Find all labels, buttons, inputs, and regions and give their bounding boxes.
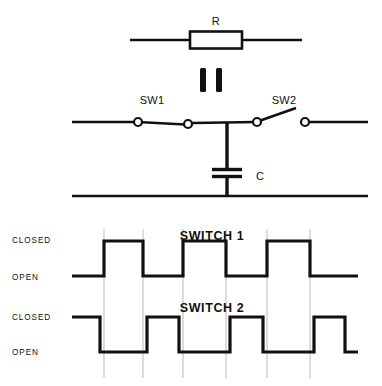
equals-bar-right <box>216 68 222 92</box>
switch-1-right-terminal[interactable] <box>184 120 192 128</box>
switch-1-open-label: OPEN <box>12 273 39 282</box>
switch-1-closed-label: CLOSED <box>12 236 51 245</box>
resistor-group: R <box>130 15 302 49</box>
resistor-label: R <box>212 15 220 27</box>
switch-2-left-terminal[interactable] <box>253 118 261 126</box>
switch-2-waveform <box>72 317 358 352</box>
capacitor-group: C <box>212 170 264 183</box>
switch-1-blade[interactable] <box>138 122 185 125</box>
resistor-body <box>190 32 242 49</box>
switch-2-title: SWITCH 2 <box>180 301 245 315</box>
switch-2-closed-label: CLOSED <box>12 313 51 322</box>
switch-2-group[interactable]: SW2 <box>253 94 309 126</box>
equals-bar-left <box>200 68 206 92</box>
switch-1-waveform <box>72 241 358 276</box>
switch-2-blade[interactable] <box>259 108 296 121</box>
switch-1-left-terminal[interactable] <box>134 118 142 126</box>
switch-1-group[interactable]: SW1 <box>134 94 192 128</box>
capacitor-label: C <box>256 170 264 182</box>
figure-canvas: R SW1 SW2 <box>0 0 382 386</box>
switch-2-timing-chart: CLOSED OPEN SWITCH 2 <box>12 301 358 357</box>
switch-2-right-terminal[interactable] <box>301 118 309 126</box>
switch-1-timing-chart: CLOSED OPEN SWITCH 1 <box>12 229 358 282</box>
switch-2-label: SW2 <box>272 94 297 106</box>
switched-capacitor-network: SW1 SW2 C <box>72 94 368 196</box>
circuit-timing-figure: R SW1 SW2 <box>0 0 382 386</box>
mid-node-wire <box>192 122 255 123</box>
equivalence-symbol <box>200 68 222 92</box>
switch-2-open-label: OPEN <box>12 348 39 357</box>
switch-1-label: SW1 <box>140 94 165 106</box>
